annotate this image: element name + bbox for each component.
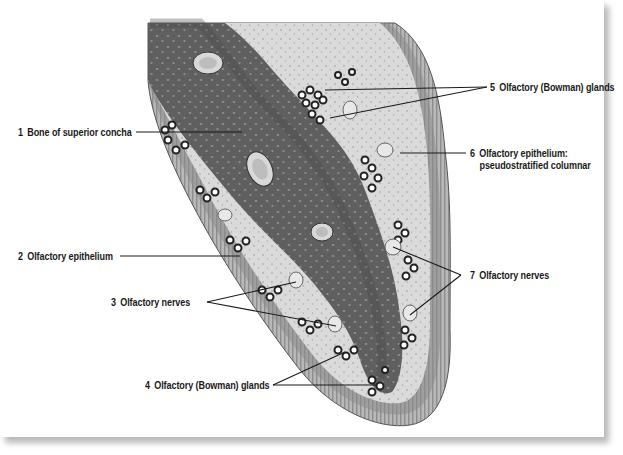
label-olfactory-nerves-left: 3Olfactory nerves: [111, 296, 190, 308]
label-bowman-glands-bottom: 4Olfactory (Bowman) glands: [145, 379, 269, 391]
olfactory-mucosa-illustration: [0, 0, 604, 437]
label-olfactory-nerves-right: 7Olfactory nerves: [470, 269, 549, 281]
label-bowman-glands-top: 5Olfactory (Bowman) glands: [490, 81, 614, 93]
label-pseudostratified-epithelium: 6Olfactory epithelium: pseudostratified …: [470, 147, 591, 171]
label-olfactory-epithelium: 2Olfactory epithelium: [18, 250, 113, 262]
label-bone-of-superior-concha: 1Bone of superior concha: [18, 126, 132, 138]
figure-card: 1Bone of superior concha 2Olfactory epit…: [0, 0, 604, 437]
tissue-section: [120, 23, 487, 426]
